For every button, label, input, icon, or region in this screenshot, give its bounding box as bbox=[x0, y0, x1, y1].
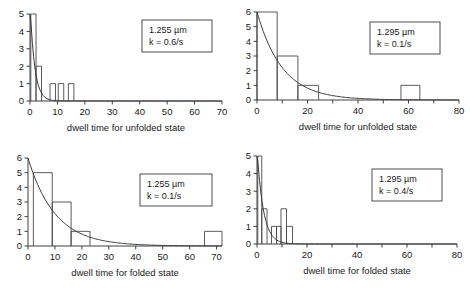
y-tick-label: 5 bbox=[17, 167, 22, 178]
histogram-bar bbox=[298, 85, 319, 100]
x-tick-group: 020406080 bbox=[254, 100, 464, 116]
x-tick-label: 80 bbox=[454, 105, 465, 116]
panel-bottom-left: 0102030405060700123456dwell time for fol… bbox=[0, 144, 235, 288]
y-tick-label: 2 bbox=[17, 211, 22, 222]
y-tick-group: 0123456 bbox=[246, 6, 257, 105]
y-tick-group: 0123456 bbox=[17, 152, 28, 251]
histogram-bar bbox=[68, 84, 73, 101]
x-tick-label: 40 bbox=[352, 249, 363, 260]
y-tick-label: 1 bbox=[17, 226, 22, 237]
x-tick-group: 010203040506070 bbox=[25, 246, 222, 262]
annotation-length-label: 1.295 µm bbox=[377, 27, 415, 37]
y-tick-group: 012345 bbox=[246, 150, 257, 249]
y-tick-label: 3 bbox=[246, 186, 251, 197]
x-tick-label: 30 bbox=[107, 106, 118, 117]
y-tick-label: 3 bbox=[246, 50, 251, 61]
histogram-bar bbox=[50, 84, 55, 101]
x-axis-title: dwell time for folded state bbox=[303, 265, 411, 276]
histogram-bar bbox=[52, 202, 71, 246]
histogram-bars bbox=[258, 156, 293, 244]
histogram-bar bbox=[277, 56, 298, 100]
x-axis-title: dwell time for unfolded state bbox=[299, 121, 417, 132]
x-tick-group: 020406080 bbox=[254, 244, 462, 260]
y-tick-label: 6 bbox=[17, 152, 22, 163]
x-tick-label: 70 bbox=[217, 106, 228, 117]
annotation-box: 1.255 µmk = 0.1/s bbox=[140, 174, 212, 206]
plot-svg: 0204060800123456dwell time for unfolded … bbox=[235, 0, 470, 144]
x-tick-label: 60 bbox=[403, 105, 414, 116]
x-tick-label: 20 bbox=[302, 249, 313, 260]
annotation-length-label: 1.255 µm bbox=[147, 179, 185, 189]
histogram-bar bbox=[58, 84, 63, 101]
annotation-box: 1.255 µmk = 0.6/s bbox=[142, 20, 212, 52]
x-tick-label: 40 bbox=[134, 106, 145, 117]
y-tick-label: 5 bbox=[246, 150, 251, 161]
y-tick-label: 4 bbox=[17, 182, 22, 193]
y-tick-label: 2 bbox=[19, 61, 24, 72]
y-tick-label: 5 bbox=[246, 21, 251, 32]
y-tick-label: 2 bbox=[246, 65, 251, 76]
annotation-rate-label: k = 0.1/s bbox=[147, 191, 182, 201]
plot-svg: 010203040506070012345dwell time for unfo… bbox=[0, 0, 235, 144]
histogram-bar bbox=[36, 66, 41, 101]
y-tick-label: 1 bbox=[246, 221, 251, 232]
plot-svg: 020406080012345dwell time for folded sta… bbox=[235, 144, 470, 288]
histogram-bar bbox=[287, 226, 293, 244]
x-tick-label: 40 bbox=[130, 251, 141, 262]
histogram-bar bbox=[33, 173, 52, 246]
annotation-box: 1.295 µmk = 0.4/s bbox=[372, 169, 442, 201]
panel-top-left: 010203040506070012345dwell time for unfo… bbox=[0, 0, 235, 144]
x-tick-label: 70 bbox=[211, 251, 222, 262]
plot-svg: 0102030405060700123456dwell time for fol… bbox=[0, 144, 235, 288]
y-tick-label: 4 bbox=[19, 26, 24, 37]
x-tick-label: 20 bbox=[80, 106, 91, 117]
x-tick-label: 10 bbox=[50, 251, 61, 262]
y-tick-label: 0 bbox=[19, 95, 24, 106]
x-tick-label: 40 bbox=[353, 105, 364, 116]
histogram-bar bbox=[401, 85, 420, 100]
x-tick-label: 50 bbox=[162, 106, 173, 117]
y-tick-label: 1 bbox=[19, 78, 24, 89]
x-tick-label: 0 bbox=[254, 249, 259, 260]
y-tick-label: 6 bbox=[246, 6, 251, 17]
y-tick-label: 3 bbox=[17, 196, 22, 207]
y-tick-label: 5 bbox=[19, 8, 24, 19]
histogram-bar bbox=[204, 231, 222, 246]
x-axis-title: dwell time for unfolded state bbox=[67, 122, 185, 133]
y-tick-label: 3 bbox=[19, 43, 24, 54]
x-tick-label: 80 bbox=[452, 249, 463, 260]
x-tick-label: 0 bbox=[254, 105, 259, 116]
annotation-length-label: 1.255 µm bbox=[149, 25, 187, 35]
panel-bottom-right: 020406080012345dwell time for folded sta… bbox=[235, 144, 470, 288]
x-tick-label: 20 bbox=[77, 251, 88, 262]
x-tick-label: 20 bbox=[302, 105, 313, 116]
x-tick-label: 50 bbox=[157, 251, 168, 262]
y-tick-label: 0 bbox=[246, 94, 251, 105]
x-tick-group: 010203040506070 bbox=[27, 101, 227, 117]
histogram-bar bbox=[281, 209, 287, 244]
y-tick-label: 4 bbox=[246, 36, 251, 47]
x-tick-label: 0 bbox=[27, 106, 32, 117]
annotation-rate-label: k = 0.6/s bbox=[149, 37, 184, 47]
figure-container: 010203040506070012345dwell time for unfo… bbox=[0, 0, 470, 288]
x-tick-label: 60 bbox=[184, 251, 195, 262]
x-tick-label: 0 bbox=[25, 251, 30, 262]
histogram-bars bbox=[31, 14, 74, 101]
annotation-length-label: 1.295 µm bbox=[379, 174, 417, 184]
annotation-box: 1.295 µmk = 0.1/s bbox=[370, 22, 440, 54]
x-tick-label: 10 bbox=[52, 106, 63, 117]
y-tick-group: 012345 bbox=[19, 8, 30, 106]
annotation-rate-label: k = 0.1/s bbox=[377, 39, 412, 49]
panel-top-right: 0204060800123456dwell time for unfolded … bbox=[235, 0, 470, 144]
x-tick-label: 30 bbox=[104, 251, 115, 262]
x-tick-label: 60 bbox=[402, 249, 413, 260]
y-tick-label: 0 bbox=[17, 240, 22, 251]
y-tick-label: 0 bbox=[246, 238, 251, 249]
y-tick-label: 1 bbox=[246, 80, 251, 91]
annotation-rate-label: k = 0.4/s bbox=[379, 186, 414, 196]
y-tick-label: 4 bbox=[246, 168, 251, 179]
x-tick-label: 60 bbox=[189, 106, 200, 117]
y-tick-label: 2 bbox=[246, 203, 251, 214]
x-axis-title: dwell time for folded state bbox=[71, 267, 179, 278]
